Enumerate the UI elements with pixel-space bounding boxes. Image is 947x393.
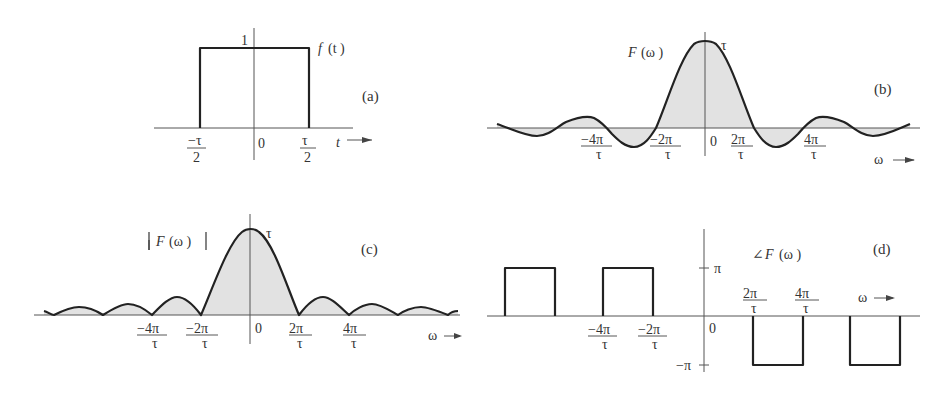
d-phase-pulse-4 <box>850 316 900 365</box>
panel-b: ω F (ω ) τ (b) 0 −4π τ −2π τ 2π τ 4π τ <box>487 32 920 167</box>
d-pos4pi-den: τ <box>803 301 809 316</box>
c-title-f: F <box>155 234 165 249</box>
b-title-arg: (ω ) <box>641 45 663 61</box>
c-tau-label: τ <box>266 226 272 241</box>
a-neg-tau-num: −τ <box>188 133 202 148</box>
c-xvar-label: ω <box>428 328 437 343</box>
c-arrow-head-icon <box>454 333 462 339</box>
b-neg4pi-den: τ <box>596 147 602 162</box>
panel-d: π −π 0 ∠ F (ω ) (d) −4π τ −2π τ 2π τ 4π … <box>487 229 920 373</box>
d-panel-label: (d) <box>873 241 891 258</box>
c-neg4pi-den: τ <box>152 336 158 351</box>
panel-a: 1 f (t ) (a) 0 t −τ 2 τ 2 <box>154 28 379 165</box>
d-arrow-head-icon <box>886 295 895 301</box>
panel-c: F (ω ) τ (c) 0 −4π τ −2π τ 2π τ 4π τ ω <box>34 214 462 351</box>
d-phase-pulse-2 <box>603 268 653 316</box>
a-neg-tau-den: 2 <box>193 150 200 165</box>
d-neg-pi-label: −π <box>676 358 691 373</box>
d-pi-label: π <box>714 261 721 276</box>
c-fill-area <box>44 229 458 315</box>
a-title-f: f <box>318 41 324 56</box>
c-zero-label: 0 <box>255 321 262 336</box>
d-phase-pulse-1 <box>505 268 555 316</box>
d-xvar-label: ω <box>858 290 867 305</box>
c-pos4pi-num: 4π <box>343 321 357 336</box>
a-title-arg: (t ) <box>328 41 345 57</box>
b-tau-label: τ <box>721 38 727 53</box>
c-pos4pi-den: τ <box>351 336 357 351</box>
d-title-f: F <box>764 247 774 262</box>
a-xvar-label: t <box>336 135 341 150</box>
a-one-label: 1 <box>241 33 248 48</box>
b-neg2pi-num: −2π <box>650 132 672 147</box>
d-zero-label: 0 <box>709 321 716 336</box>
c-pos2pi-den: τ <box>297 336 303 351</box>
b-neg4pi-num: −4π <box>581 132 603 147</box>
d-neg2pi-den: τ <box>652 337 658 352</box>
b-pos4pi-num: 4π <box>804 132 818 147</box>
d-title-arg: (ω ) <box>779 247 801 263</box>
b-title-f: F <box>627 45 637 60</box>
b-arrow-head-icon <box>905 157 915 163</box>
c-title-arg: (ω ) <box>169 234 191 250</box>
b-pos4pi-den: τ <box>811 147 817 162</box>
figure-canvas: 1 f (t ) (a) 0 t −τ 2 τ 2 ω F (ω ) τ (b)… <box>0 0 947 393</box>
c-pos2pi-num: 2π <box>289 321 303 336</box>
a-pos-tau-num: τ <box>302 133 308 148</box>
b-fill-area <box>497 41 910 147</box>
d-phase-pulse-3 <box>753 316 803 365</box>
b-panel-label: (b) <box>874 81 892 98</box>
d-pos2pi-den: τ <box>751 301 757 316</box>
d-pos4pi-num: 4π <box>795 286 809 301</box>
a-panel-label: (a) <box>362 88 379 105</box>
d-title-angle: ∠ <box>752 247 764 262</box>
b-xvar-label: ω <box>874 152 883 167</box>
a-pos-tau-den: 2 <box>304 150 311 165</box>
a-zero-label: 0 <box>258 136 265 151</box>
c-neg4pi-num: −4π <box>137 321 159 336</box>
b-zero-label: 0 <box>710 134 717 149</box>
d-pos2pi-num: 2π <box>743 286 757 301</box>
c-neg2pi-num: −2π <box>186 321 208 336</box>
d-neg2pi-num: −2π <box>638 322 660 337</box>
b-pos2pi-num: 2π <box>731 132 745 147</box>
a-arrow-head-icon <box>362 137 372 143</box>
d-neg4pi-den: τ <box>602 337 608 352</box>
d-neg4pi-num: −4π <box>588 322 610 337</box>
b-neg2pi-den: τ <box>665 147 671 162</box>
c-neg2pi-den: τ <box>202 336 208 351</box>
b-pos2pi-den: τ <box>738 147 744 162</box>
c-panel-label: (c) <box>361 241 378 258</box>
